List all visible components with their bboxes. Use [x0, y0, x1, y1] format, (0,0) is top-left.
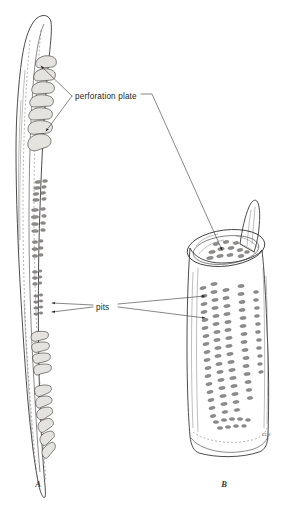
label-perforation-plate: perforation plate — [75, 92, 137, 101]
xylem-vessel-illustration: A — [0, 0, 296, 515]
label-pits: pits — [96, 303, 109, 312]
figure-root: A — [0, 0, 296, 515]
panel-b-caption: B — [220, 479, 227, 489]
artist-signature: ELW — [261, 432, 272, 437]
panel-a-caption: A — [34, 479, 41, 489]
